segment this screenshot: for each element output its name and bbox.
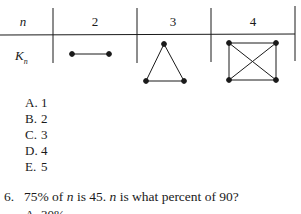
table-header-n: n (20, 14, 27, 30)
option-letter: B. (25, 111, 41, 127)
table-row-label-kn: Kn (15, 48, 28, 66)
graph-k2-icon (70, 52, 112, 57)
question-number: 6. (4, 189, 24, 205)
option-text: 2 (41, 111, 48, 126)
option-e: E.5 (25, 159, 48, 175)
option-b: B.2 (25, 111, 48, 127)
option-letter: A. (25, 95, 41, 111)
question-text: 75% of (24, 189, 67, 204)
option-letter: E. (25, 159, 41, 175)
question-text: is what percent of 90? (116, 189, 239, 204)
option-letter: C. (25, 127, 41, 143)
graph-k3-icon (144, 42, 187, 84)
option-text: 4 (41, 143, 48, 158)
table-header-col-2: 2 (92, 14, 99, 30)
option-letter: D. (25, 143, 41, 159)
option-text: 1 (41, 95, 48, 110)
kn-subscript: n (24, 57, 28, 66)
option-d: D.4 (25, 143, 48, 159)
question-variable: n (67, 189, 74, 204)
option-text: 3 (41, 127, 48, 142)
option-a: A.1 (25, 95, 48, 111)
graph-k4-icon (227, 41, 279, 83)
option-c: C.3 (25, 127, 48, 143)
table-header-col-3: 3 (170, 14, 177, 30)
question-text: is 45. (74, 189, 110, 204)
table-divider-horizontal (0, 34, 295, 35)
question-6-option-a-partial: A. 30% (25, 207, 65, 214)
question-6: 6.75% of n is 45. n is what percent of 9… (4, 189, 239, 205)
table-header-col-4: 4 (250, 14, 257, 30)
kn-base: K (15, 48, 24, 63)
option-text: 5 (41, 159, 48, 174)
